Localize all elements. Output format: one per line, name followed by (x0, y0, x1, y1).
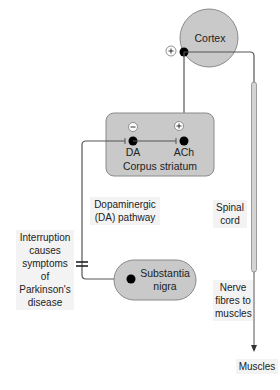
dopaminergic-line1: Dopaminergic (92, 198, 158, 211)
pathway-diagram (0, 0, 280, 390)
arrow-down-icon (251, 345, 257, 352)
spinal-cord (252, 82, 257, 272)
interruption-line3: symptoms of (18, 257, 72, 283)
substantia-line2: nigra (138, 280, 192, 293)
dopaminergic-pathway-label: Dopaminergic (DA) pathway (90, 197, 160, 225)
da-label: DA (122, 146, 144, 159)
spinal-cord-label: Spinal cord (213, 200, 247, 228)
nerve-line1: Nerve (215, 281, 251, 294)
interruption-line1: Interruption (18, 231, 72, 244)
muscles-label: Muscles (236, 359, 278, 374)
substantia-nigra-neuron-icon (127, 275, 136, 284)
dopaminergic-line2: (DA) pathway (92, 211, 158, 224)
interruption-line2: causes (18, 244, 72, 257)
substantia-line1: Substantia (138, 267, 192, 280)
ach-neuron-icon (180, 137, 189, 146)
interruption-line4: Parkinson's (18, 283, 72, 296)
corpus-striatum-label: Corpus striatum (106, 160, 214, 173)
interruption-label: Interruption causes symptoms of Parkinso… (16, 230, 74, 310)
spinal-line2: cord (215, 214, 245, 227)
interruption-line5: disease (18, 296, 72, 309)
substantia-nigra-label: Substantia nigra (138, 267, 192, 293)
nerve-line2: fibres to (215, 294, 251, 307)
nerve-line3: muscles (215, 307, 251, 320)
ach-label: ACh (170, 146, 198, 159)
cortex-label: Cortex (190, 32, 230, 45)
nerve-fibres-label: Nerve fibres to muscles (213, 280, 253, 321)
spinal-line1: Spinal (215, 201, 245, 214)
